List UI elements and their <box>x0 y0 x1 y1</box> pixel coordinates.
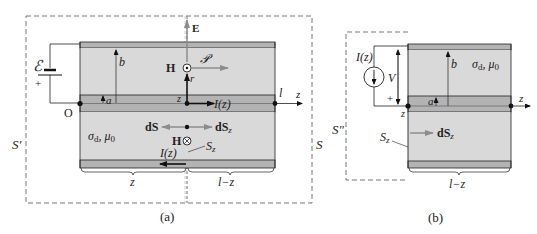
bracket-l-minus-z <box>188 168 274 175</box>
emf-label: ℰ <box>33 58 44 74</box>
bracket-z <box>81 168 186 175</box>
plus-label: + <box>35 77 41 89</box>
figure-b: I(z) V + z z b a σd, μ0 S″ Sz dSz l−z (b… <box>332 32 530 225</box>
l-label: l <box>279 86 283 100</box>
return-current-label: I(z) <box>159 146 177 160</box>
dS-label: dS <box>145 120 159 134</box>
S-prime-label: S′ <box>12 137 22 152</box>
V-label: V <box>388 71 397 85</box>
E-label: E <box>192 22 199 34</box>
Sz-label-b: Sz <box>380 130 390 145</box>
a-label-b: a <box>428 95 434 107</box>
r-label: r <box>190 72 195 84</box>
b-label: b <box>119 55 125 69</box>
b-label-b: b <box>451 57 457 71</box>
z-axis-label: z <box>295 88 301 100</box>
z-point-label: z <box>176 93 181 104</box>
origin-dot <box>77 101 82 106</box>
z-axis-label-b: z <box>518 92 524 104</box>
bracket-l-minus-z-label: l−z <box>218 175 234 189</box>
current-label: I(z) <box>213 97 231 111</box>
outer-conductor-top <box>80 42 275 48</box>
origin-label: O <box>64 106 73 120</box>
figure-a: ℰ + O b a E H 𝒫 r z I(z) l z σd, μ0 <box>12 16 323 224</box>
source-label: I(z) <box>355 50 373 64</box>
S-label: S <box>316 137 323 152</box>
z-point-label-b: z <box>400 108 405 119</box>
bracket-l-minus-z-b <box>409 168 510 175</box>
coax-poynting-diagram: ℰ + O b a E H 𝒫 r z I(z) l z σd, μ0 <box>0 0 537 234</box>
caption-a: (a) <box>160 209 174 224</box>
z-point-dot-b <box>405 103 410 108</box>
a-label: a <box>106 94 112 106</box>
dielectric-top <box>80 48 275 95</box>
S-double-prime-label: S″ <box>332 122 345 137</box>
plus-label-b: + <box>387 92 393 104</box>
bracket-z-label: z <box>129 175 135 189</box>
H-top-label: H <box>166 61 176 75</box>
caption-b: (b) <box>428 210 443 225</box>
emf-source: ℰ + <box>33 44 80 103</box>
bracket-label-b: l−z <box>449 177 465 191</box>
current-source: I(z) V + <box>355 46 408 106</box>
